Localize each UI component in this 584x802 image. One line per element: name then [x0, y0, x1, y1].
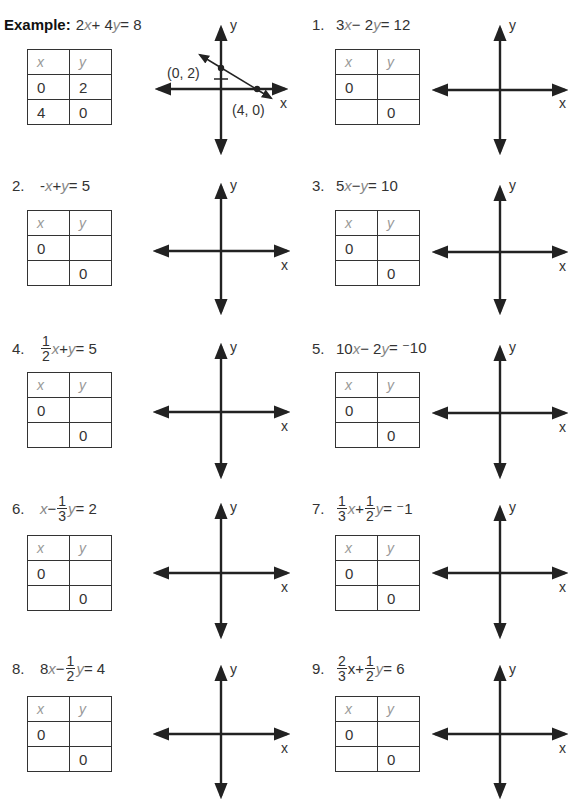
problem-equation: 5. 10x − 2y = ⁻10: [312, 339, 427, 357]
x-answer-cell[interactable]: [336, 423, 378, 448]
table-row: 0: [336, 561, 420, 586]
coordinate-graph[interactable]: y x: [150, 480, 310, 650]
x-cell[interactable]: 0: [28, 722, 70, 747]
table-row: 0: [336, 423, 420, 448]
y-cell[interactable]: 0: [378, 747, 420, 772]
x-cell[interactable]: 0: [336, 561, 378, 586]
y-answer-cell[interactable]: [70, 398, 112, 423]
svg-text:x: x: [559, 258, 566, 274]
problem-equation: 4. 12x + y = 5: [12, 334, 97, 363]
fraction: 23: [337, 654, 347, 683]
x-answer-cell[interactable]: [28, 423, 70, 448]
svg-text:y: y: [230, 177, 237, 193]
coordinate-graph[interactable]: y x: [425, 480, 584, 650]
table-row: 0: [336, 747, 420, 772]
y-cell[interactable]: 0: [378, 586, 420, 611]
y-cell[interactable]: 0: [70, 423, 112, 448]
x-cell[interactable]: 0: [336, 75, 378, 100]
svg-text:y: y: [230, 499, 237, 515]
y-cell[interactable]: 0: [378, 100, 420, 125]
problem-equation: 8. 8x − 12y = 4: [12, 654, 105, 683]
table-row: 0: [28, 561, 112, 586]
y-answer-cell[interactable]: [378, 398, 420, 423]
example-label: Example:: [4, 16, 71, 33]
x-cell[interactable]: 0: [336, 722, 378, 747]
y-answer-cell[interactable]: [378, 236, 420, 261]
xy-table: xy 0 0: [27, 696, 112, 772]
y-answer-cell[interactable]: [378, 75, 420, 100]
x-cell[interactable]: 0: [28, 236, 70, 261]
table-row: 0: [28, 423, 112, 448]
table-row: 40: [28, 100, 112, 125]
y-cell[interactable]: 0: [70, 261, 112, 286]
y-answer-cell[interactable]: [70, 722, 112, 747]
x-answer-cell[interactable]: [28, 586, 70, 611]
table-row: 0: [336, 75, 420, 100]
coordinate-graph[interactable]: y x: [425, 640, 584, 802]
example-coordinate-graph: y x (0, 2) (4, 0): [150, 0, 310, 160]
xy-table: xy 0 0: [335, 49, 420, 125]
table-row: 0: [336, 236, 420, 261]
svg-text:y: y: [509, 17, 516, 33]
x-answer-cell[interactable]: [336, 261, 378, 286]
x-cell[interactable]: 0: [28, 398, 70, 423]
fraction: 12: [66, 654, 76, 683]
table-row: 0: [28, 398, 112, 423]
xy-table: xy 0 0: [27, 535, 112, 611]
example-equation: Example: 2x + 4y = 8: [4, 16, 142, 33]
coordinate-graph[interactable]: y x: [150, 320, 310, 490]
svg-text:x: x: [281, 740, 288, 756]
x-answer-cell[interactable]: [336, 586, 378, 611]
x-axis-label: x: [280, 95, 287, 111]
coordinate-graph[interactable]: y x: [425, 160, 584, 320]
fraction: 12: [365, 494, 375, 523]
table-header-row: xy: [28, 50, 112, 75]
y-answer-cell[interactable]: [378, 561, 420, 586]
problem-equation: 7. 13x + 12y = ⁻1: [312, 494, 413, 523]
x-answer-cell[interactable]: [336, 747, 378, 772]
y-answer-cell[interactable]: [70, 236, 112, 261]
coordinate-graph[interactable]: y x: [150, 160, 310, 320]
y-answer-cell[interactable]: [378, 722, 420, 747]
xy-table: xy 0 0: [27, 372, 112, 448]
y-cell[interactable]: 0: [378, 261, 420, 286]
x-cell[interactable]: 0: [336, 236, 378, 261]
x-cell[interactable]: 0: [28, 561, 70, 586]
y-cell[interactable]: 0: [70, 747, 112, 772]
problem-8: 8. 8x − 12y = 4 xy 0 0 y x: [0, 640, 292, 800]
svg-text:y: y: [230, 339, 237, 355]
x-answer-cell[interactable]: [336, 100, 378, 125]
fraction: 13: [337, 494, 347, 523]
problem-6: 6. x − 13y = 2 xy 0 0 y x: [0, 480, 292, 640]
x-answer-cell[interactable]: [28, 747, 70, 772]
coordinate-graph[interactable]: y x: [425, 0, 584, 160]
problem-equation: 1. 3x − 2y = 12: [312, 16, 410, 33]
x-cell[interactable]: 0: [336, 398, 378, 423]
point-label-4-0: (4, 0): [232, 102, 265, 118]
xy-table: xy 0 0: [335, 696, 420, 772]
xy-table: xy 0 0: [335, 372, 420, 448]
svg-text:x: x: [559, 95, 566, 111]
coordinate-graph[interactable]: y x: [425, 320, 584, 490]
x-answer-cell[interactable]: [28, 261, 70, 286]
table-row: 0: [336, 398, 420, 423]
y-cell[interactable]: 0: [70, 586, 112, 611]
problem-3: 3. 5x − y = 10 xy 0 0 y x: [292, 160, 584, 320]
svg-text:y: y: [509, 499, 516, 515]
table-row: 0: [28, 236, 112, 261]
y-cell[interactable]: 0: [378, 423, 420, 448]
svg-text:y: y: [509, 339, 516, 355]
plotted-line: [200, 55, 271, 98]
y-answer-cell[interactable]: [70, 561, 112, 586]
svg-text:y: y: [230, 661, 237, 677]
coordinate-graph[interactable]: y x: [150, 640, 310, 802]
point-0-2: [218, 65, 224, 71]
svg-text:x: x: [281, 579, 288, 595]
point-4-0: [254, 86, 260, 92]
problem-equation: 2. -x + y = 5: [12, 177, 90, 194]
svg-text:y: y: [509, 177, 516, 193]
problem-4: 4. 12x + y = 5 xy 0 0 y x: [0, 320, 292, 480]
svg-text:x: x: [281, 418, 288, 434]
table-row: 0: [28, 747, 112, 772]
svg-text:y: y: [509, 661, 516, 677]
